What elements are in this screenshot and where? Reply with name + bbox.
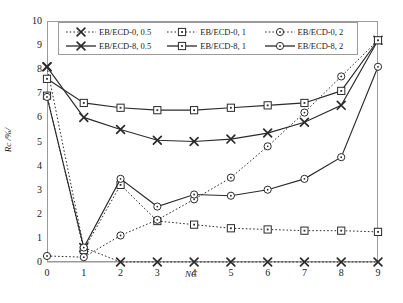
x-axis-tick-label: 8 (329, 268, 353, 278)
x-axis-tick-label: 0 (35, 268, 59, 278)
x-axis-tick-label: 7 (292, 268, 316, 278)
legend-label: EB/ECD-8, 1 (198, 42, 246, 51)
legend-entry[interactable]: EB/ECD-8, 1 (166, 39, 263, 53)
y-axis-tick-label: 0 (18, 257, 42, 267)
legend-entry[interactable]: EB/ECD-0, 0.5 (59, 25, 166, 39)
y-axis-tick-label: 6 (18, 112, 42, 122)
y-axis-tick-label: 4 (18, 161, 42, 171)
x-axis-tick-label: 9 (366, 268, 390, 278)
x-axis-tick-label: 5 (219, 268, 243, 278)
y-axis-tick-label: 1 (18, 233, 42, 243)
legend-x-marker-icon (65, 26, 97, 38)
legend-square-marker-icon (166, 40, 198, 52)
chart-figure: 012345678910 0123456789 Rc /%/ NC EB/ECD… (0, 0, 403, 303)
y-axis-tick-labels: 012345678910 (14, 0, 42, 303)
y-axis-tick-label: 8 (18, 64, 42, 74)
legend-row: EB/ECD-8, 0.5EB/ECD-8, 1EB/ECD-8, 2 (59, 39, 357, 53)
legend-label: EB/ECD-0, 1 (198, 28, 246, 37)
legend-entry[interactable]: EB/ECD-0, 1 (166, 25, 263, 39)
y-axis-tick-label: 2 (18, 209, 42, 219)
chart-legend: EB/ECD-0, 0.5EB/ECD-0, 1EB/ECD-0, 2EB/EC… (58, 22, 358, 55)
series-0 (43, 63, 382, 266)
legend-x-marker-icon (65, 40, 97, 52)
x-axis-title: NC (171, 269, 211, 279)
x-axis-tick-label: 3 (145, 268, 169, 278)
y-axis-tick-label: 7 (18, 88, 42, 98)
y-axis-tick-label: 3 (18, 185, 42, 195)
series-5 (43, 63, 381, 251)
legend-circle-marker-icon (264, 26, 296, 38)
legend-label: EB/ECD-8, 0.5 (97, 42, 151, 51)
x-axis-tick-label: 2 (109, 268, 133, 278)
legend-label: EB/ECD-0, 0.5 (97, 28, 151, 37)
y-axis-tick-label: 5 (18, 137, 42, 147)
y-axis-tick-label: 9 (18, 40, 42, 50)
legend-entry[interactable]: EB/ECD-8, 2 (264, 39, 357, 53)
y-axis-title: Rc /%/ (3, 110, 13, 170)
legend-square-marker-icon (166, 26, 198, 38)
y-axis-tick-label: 10 (18, 16, 42, 26)
legend-circle-marker-icon (264, 40, 296, 52)
legend-label: EB/ECD-0, 2 (296, 28, 344, 37)
legend-label: EB/ECD-8, 2 (296, 42, 344, 51)
x-axis-tick-label: 1 (72, 268, 96, 278)
x-axis-tick-label: 6 (256, 268, 280, 278)
legend-row: EB/ECD-0, 0.5EB/ECD-0, 1EB/ECD-0, 2 (59, 25, 357, 39)
legend-entry[interactable]: EB/ECD-8, 0.5 (59, 39, 166, 53)
legend-entry[interactable]: EB/ECD-0, 2 (264, 25, 357, 39)
